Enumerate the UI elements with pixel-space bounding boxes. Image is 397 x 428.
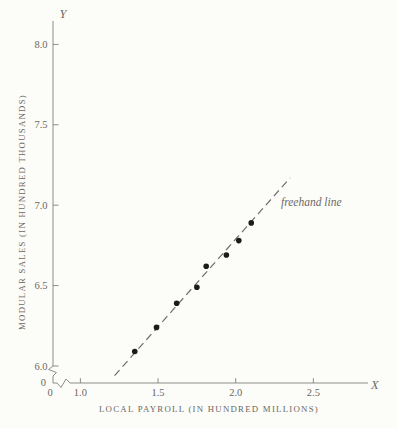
y-tick-label: 6.5	[34, 280, 47, 291]
scatter-plot-figure: 6.06.57.07.58.01.01.52.02.5 Y X LOCAL PA…	[0, 0, 397, 428]
freehand-line-label: freehand line	[281, 196, 342, 209]
data-point	[236, 238, 242, 244]
x-axis-line	[53, 379, 368, 388]
x-tick-label: 2.0	[229, 387, 242, 398]
y-origin-label: 0	[41, 377, 46, 388]
x-tick-label: 2.5	[307, 387, 320, 398]
data-point	[224, 252, 230, 258]
data-point	[174, 300, 180, 306]
x-axis-title: LOCAL PAYROLL (IN HUNDRED MILLIONS)	[99, 404, 319, 414]
freehand-line	[115, 178, 290, 376]
y-axis-symbol: Y	[60, 7, 69, 21]
data-point	[203, 264, 209, 270]
y-tick-label: 7.5	[34, 119, 47, 130]
y-axis-line	[49, 21, 57, 383]
x-tick-label: 1.5	[151, 387, 164, 398]
y-tick-label: 6.0	[34, 361, 47, 372]
y-tick-label: 8.0	[34, 39, 47, 50]
y-tick-label: 7.0	[34, 200, 47, 211]
y-axis-title: MODULAR SALES (IN HUNDRED THOUSANDS)	[17, 94, 27, 330]
x-tick-label: 1.0	[74, 387, 87, 398]
chart-canvas: 6.06.57.07.58.01.01.52.02.5 Y X LOCAL PA…	[0, 0, 397, 428]
x-origin-label: 0	[47, 387, 52, 398]
data-point	[154, 325, 160, 331]
data-point	[194, 284, 200, 290]
chart-generated-layer: 6.06.57.07.58.01.01.52.02.5	[34, 21, 368, 398]
x-axis-symbol: X	[370, 378, 380, 392]
data-point	[132, 349, 138, 355]
data-point	[248, 220, 254, 226]
